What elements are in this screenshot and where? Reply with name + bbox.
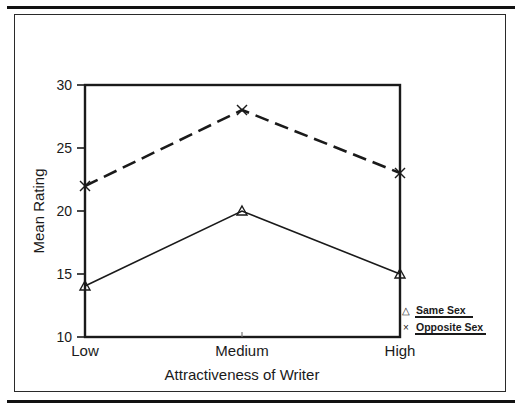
figure-container: 30 25 20 15 10 Low Medium High Attractiv… — [0, 0, 521, 406]
legend-marker-cross-icon: × — [403, 322, 409, 333]
x-category-label-medium: Medium — [215, 342, 268, 359]
x-category-label-high: High — [385, 342, 416, 359]
y-tick-label-20: 20 — [56, 203, 72, 219]
y-tick-label-10: 10 — [56, 329, 72, 345]
legend-label-opposite-sex: Opposite Sex — [416, 321, 483, 333]
y-tick-label-15: 15 — [56, 266, 72, 282]
legend-marker-triangle-icon: △ — [402, 305, 410, 316]
line-chart: 30 25 20 15 10 Low Medium High Attractiv… — [0, 0, 521, 406]
series-markers-same-sex — [80, 206, 405, 290]
chart-legend: △ Same Sex × Opposite Sex — [402, 304, 486, 334]
y-tick-label-25: 25 — [56, 140, 72, 156]
series-markers-opposite-sex — [80, 105, 405, 191]
y-axis-title: Mean Rating — [30, 168, 47, 253]
x-axis-title: Attractiveness of Writer — [165, 366, 320, 383]
series-line-opposite-sex — [85, 110, 400, 186]
legend-label-same-sex: Same Sex — [416, 304, 466, 316]
y-tick-label-30: 30 — [56, 77, 72, 93]
x-category-label-low: Low — [71, 342, 99, 359]
series-line-same-sex — [85, 211, 400, 286]
